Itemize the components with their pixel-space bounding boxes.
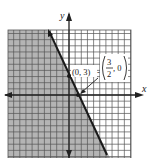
- point-a-label: (0, 3): [72, 67, 91, 77]
- y-axis-up-arrow-icon: [66, 12, 72, 21]
- fraction-rest: , 0: [113, 63, 122, 73]
- y-axis-label: y: [59, 10, 65, 21]
- label-dash: -: [97, 67, 100, 77]
- point-3-2-0: [76, 93, 80, 97]
- pointer-line: [82, 78, 98, 92]
- point-0-3: [67, 74, 71, 78]
- shaded-region: [8, 30, 110, 158]
- fraction-denominator: 2: [107, 69, 111, 79]
- fraction-numerator: 3: [107, 57, 111, 67]
- x-axis-label: x: [141, 83, 147, 94]
- graph: y x (0, 3) - 3 2 , 0: [0, 0, 155, 158]
